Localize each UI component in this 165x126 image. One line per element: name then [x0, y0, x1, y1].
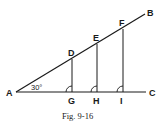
line-ab — [16, 14, 145, 92]
label-g: G — [68, 96, 75, 106]
right-angle-g — [66, 86, 72, 92]
right-angle-i — [117, 86, 123, 92]
label-d: D — [68, 48, 75, 58]
figure-9-16: A B C D E F G H I 30° Fig. 9-16 — [0, 0, 165, 126]
label-b: B — [147, 8, 154, 18]
label-f: F — [119, 18, 125, 28]
label-i: I — [120, 96, 123, 106]
label-c: C — [149, 88, 156, 98]
label-h: H — [93, 96, 100, 106]
right-angle-h — [91, 86, 97, 92]
angle-label: 30° — [31, 83, 42, 92]
label-e: E — [93, 33, 99, 43]
figure-caption: Fig. 9-16 — [62, 111, 93, 121]
label-a: A — [6, 88, 13, 98]
